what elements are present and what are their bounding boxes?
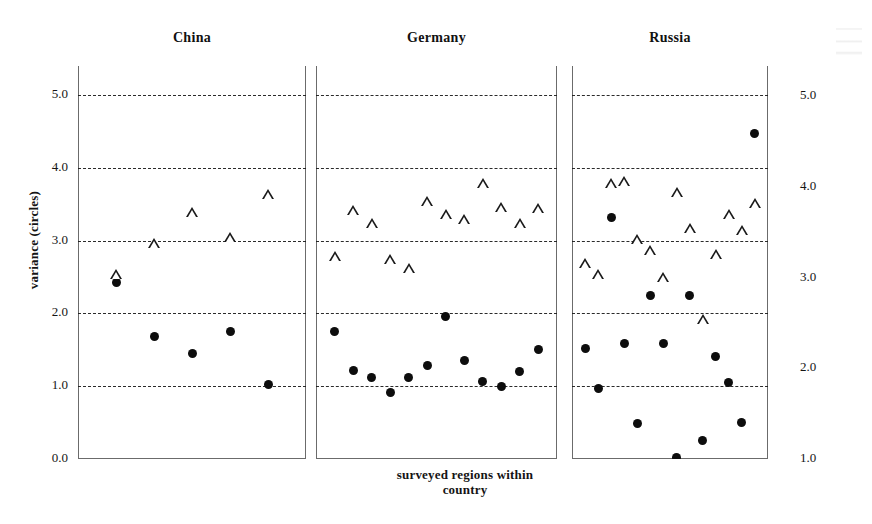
y-axis-left-tick-label: 5.0 [34, 86, 68, 102]
gridline [572, 95, 768, 96]
y-axis-left-tick-label: 1.0 [34, 377, 68, 393]
panel-russia: Russia [572, 66, 768, 459]
data-point-circle [620, 339, 629, 348]
triangle-glyph [684, 233, 696, 243]
triangle-glyph [532, 213, 544, 223]
triangle-glyph [736, 235, 748, 245]
data-point-circle [633, 419, 642, 428]
y-axis-right-tick-label: 4.0 [800, 178, 834, 194]
gridline [78, 168, 306, 169]
gridline [316, 168, 557, 169]
data-point-circle [330, 327, 339, 336]
data-point-circle [386, 388, 395, 397]
data-point-circle [534, 345, 543, 354]
axis-spine-left [78, 66, 79, 459]
gridline [572, 313, 768, 314]
y-axis-right-tick-label: 2.0 [800, 359, 834, 375]
triangle-glyph [644, 255, 656, 265]
data-point-circle [226, 327, 235, 336]
plot-area [78, 66, 306, 459]
data-point-circle [404, 373, 413, 382]
panel-title: China [78, 30, 306, 46]
data-point-circle [264, 380, 273, 389]
data-point-circle [594, 384, 603, 393]
triangle-glyph [262, 199, 274, 209]
data-point-circle [460, 356, 469, 365]
triangle-glyph [384, 264, 396, 274]
y-axis-right-tick-label: 5.0 [800, 87, 834, 103]
triangle-glyph [403, 273, 415, 283]
x-axis-title-line-2: country [300, 483, 630, 498]
y-axis-left-tick-label: 3.0 [34, 232, 68, 248]
y-axis-left-ticks: 0.01.02.03.04.05.0 [28, 0, 68, 524]
triangle-glyph [723, 219, 735, 229]
data-point-circle [659, 339, 668, 348]
triangle-glyph [186, 217, 198, 227]
axis-spine-right [556, 66, 557, 459]
axis-spine-right [305, 66, 306, 459]
gridline [78, 95, 306, 96]
data-point-circle [711, 352, 720, 361]
triangle-glyph [440, 219, 452, 229]
data-point-circle [646, 291, 655, 300]
x-axis-title: surveyed regions within country [300, 468, 630, 498]
triangle-glyph [671, 197, 683, 207]
gridline [316, 95, 557, 96]
gridline [316, 386, 557, 387]
data-point-circle [698, 436, 707, 445]
triangle-glyph [749, 208, 761, 218]
triangle-glyph [605, 188, 617, 198]
triangle-glyph [631, 244, 643, 254]
data-point-circle [737, 418, 746, 427]
data-point-circle [150, 332, 159, 341]
triangle-glyph [347, 215, 359, 225]
triangle-glyph [592, 279, 604, 289]
data-point-circle [478, 377, 487, 386]
y-axis-right-tick-label: 1.0 [800, 450, 834, 466]
panel-china: China [78, 66, 306, 459]
triangle-glyph [710, 259, 722, 269]
data-point-circle [188, 349, 197, 358]
data-point-circle [685, 291, 694, 300]
data-point-circle [607, 213, 616, 222]
axis-spine-bottom [316, 458, 557, 459]
triangle-glyph [148, 248, 160, 258]
data-point-circle [423, 361, 432, 370]
triangle-glyph [618, 186, 630, 196]
triangle-glyph [329, 261, 341, 271]
axis-spine-bottom [572, 458, 768, 459]
triangle-glyph [366, 228, 378, 238]
y-axis-right-ticks: 1.02.03.04.05.0 [800, 0, 840, 524]
y-axis-left-tick-label: 0.0 [34, 450, 68, 466]
triangle-glyph [657, 282, 669, 292]
scatter-figure: variance (circles) group mean (triangles… [0, 0, 872, 524]
gridline [572, 168, 768, 169]
triangle-glyph [514, 228, 526, 238]
data-point-circle [581, 344, 590, 353]
gridline [78, 241, 306, 242]
axis-spine-bottom [78, 458, 306, 459]
y-axis-right-tick-label: 3.0 [800, 269, 834, 285]
triangle-glyph [579, 268, 591, 278]
gridline [316, 241, 557, 242]
data-point-circle [750, 129, 759, 138]
axis-spine-left [316, 66, 317, 459]
panel-germany: Germany [316, 66, 557, 459]
panel-title: Germany [316, 30, 557, 46]
triangle-glyph [697, 324, 709, 334]
gridline [78, 313, 306, 314]
data-point-circle [349, 366, 358, 375]
data-point-circle [367, 373, 376, 382]
x-axis-title-line-1: surveyed regions within [300, 468, 630, 483]
triangle-glyph [224, 242, 236, 252]
triangle-glyph [458, 224, 470, 234]
plot-area [316, 66, 557, 459]
data-point-circle [672, 453, 681, 459]
triangle-glyph [110, 279, 122, 289]
data-point-circle [441, 312, 450, 321]
y-axis-left-tick-label: 2.0 [34, 304, 68, 320]
gridline [316, 313, 557, 314]
plot-area [572, 66, 768, 459]
data-point-circle [515, 367, 524, 376]
axis-spine-right [767, 66, 768, 459]
